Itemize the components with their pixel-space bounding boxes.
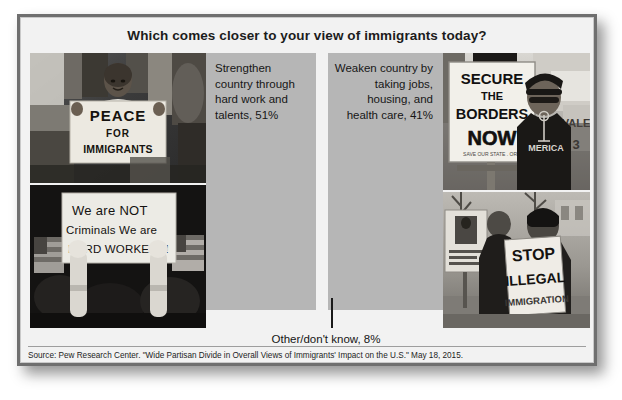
svg-text:THE: THE xyxy=(481,90,503,102)
source-divider xyxy=(28,346,586,347)
photo-child-peace-for-immigrants: PEACE FOR IMMIGRANTS xyxy=(30,53,206,183)
photo-secure-the-borders-now-image: VALE 3 SECURE THE BORDERS NOW SAVE OUR S… xyxy=(443,53,590,190)
svg-text:SECURE: SECURE xyxy=(461,70,524,87)
bar-label-weaken-country: Weaken country by taking jobs, housing, … xyxy=(333,61,433,123)
sign-stop-illegal-immigration: STOP ILLEGAL IMMIGRATION xyxy=(501,236,569,316)
svg-text:IMMIGRANTS: IMMIGRANTS xyxy=(83,143,153,155)
sign-peace-for-immigrants: PEACE FOR IMMIGRANTS xyxy=(70,101,166,163)
page-title: Which comes closer to your view of immig… xyxy=(20,28,594,43)
flag-left xyxy=(34,237,64,273)
photo-stop-illegal-immigration-image: STOP ILLEGAL IMMIGRATION xyxy=(443,192,590,328)
svg-text:SAVE OUR STATE . ORG: SAVE OUR STATE . ORG xyxy=(463,151,521,157)
photo-we-are-not-criminals: We are NOT Criminals We are HARD WORKERS… xyxy=(30,185,206,328)
svg-text:STOP: STOP xyxy=(511,245,556,265)
infographic-frame: Which comes closer to your view of immig… xyxy=(17,14,597,366)
svg-text:BORDERS: BORDERS xyxy=(456,106,529,122)
flag-right xyxy=(172,235,204,271)
svg-text:NOW: NOW xyxy=(468,127,517,149)
other-leader-line xyxy=(331,298,333,328)
photo-we-are-not-criminals-image: We are NOT Criminals We are HARD WORKERS… xyxy=(30,185,206,328)
svg-text:We are NOT: We are NOT xyxy=(72,203,148,218)
svg-text:PEACE: PEACE xyxy=(90,107,147,124)
svg-text:Criminals We are: Criminals We are xyxy=(66,224,157,236)
screenshot-stage: Which comes closer to your view of immig… xyxy=(0,0,622,400)
bar-label-strengthen-country: Strengthen country through hard work and… xyxy=(215,61,311,123)
svg-text:MERICA: MERICA xyxy=(528,143,564,153)
svg-text:FOR: FOR xyxy=(106,128,130,139)
photo-secure-the-borders-now: VALE 3 SECURE THE BORDERS NOW SAVE OUR S… xyxy=(443,53,590,190)
source-note: Source: Pew Research Center. "Wide Parti… xyxy=(28,350,588,362)
bar-label-other-dont-know: Other/don't know, 8% xyxy=(206,333,446,345)
photo-child-peace-for-immigrants-image: PEACE FOR IMMIGRANTS xyxy=(30,53,206,183)
photo-stop-illegal-immigration: STOP ILLEGAL IMMIGRATION xyxy=(443,192,590,328)
